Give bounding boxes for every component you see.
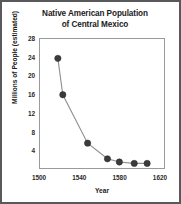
y-tick-label: 8 [5, 128, 35, 135]
y-tick-label: 16 [5, 91, 35, 98]
chart-title-line-2: of Central Mexico [20, 19, 170, 30]
y-tick-label: 24 [5, 53, 35, 60]
data-point [131, 160, 137, 166]
x-tick-label: 1580 [100, 174, 140, 181]
data-point [84, 140, 90, 146]
chart-canvas: Native American Population of Central Me… [2, 2, 181, 204]
y-tick-label: 12 [5, 109, 35, 116]
data-point [55, 55, 61, 61]
plot-area [40, 39, 164, 168]
y-tick-label: 4 [5, 147, 35, 154]
series-line [58, 58, 147, 163]
x-tick-label: 1620 [140, 174, 180, 181]
data-point [60, 92, 66, 98]
x-tick-label: 1540 [59, 174, 99, 181]
y-tick-label: 28 [5, 35, 35, 42]
chart-title-line-1: Native American Population [20, 8, 170, 19]
chart-title: Native American Population of Central Me… [20, 8, 170, 30]
x-axis-label: Year [39, 187, 165, 194]
chart-figure: Native American Population of Central Me… [0, 0, 181, 204]
data-series [40, 39, 164, 168]
data-point [144, 160, 150, 166]
x-tick-label: 1500 [19, 174, 59, 181]
plot-frame [39, 38, 165, 169]
data-point [104, 156, 110, 162]
data-point [116, 159, 122, 165]
y-tick-label: 20 [5, 72, 35, 79]
